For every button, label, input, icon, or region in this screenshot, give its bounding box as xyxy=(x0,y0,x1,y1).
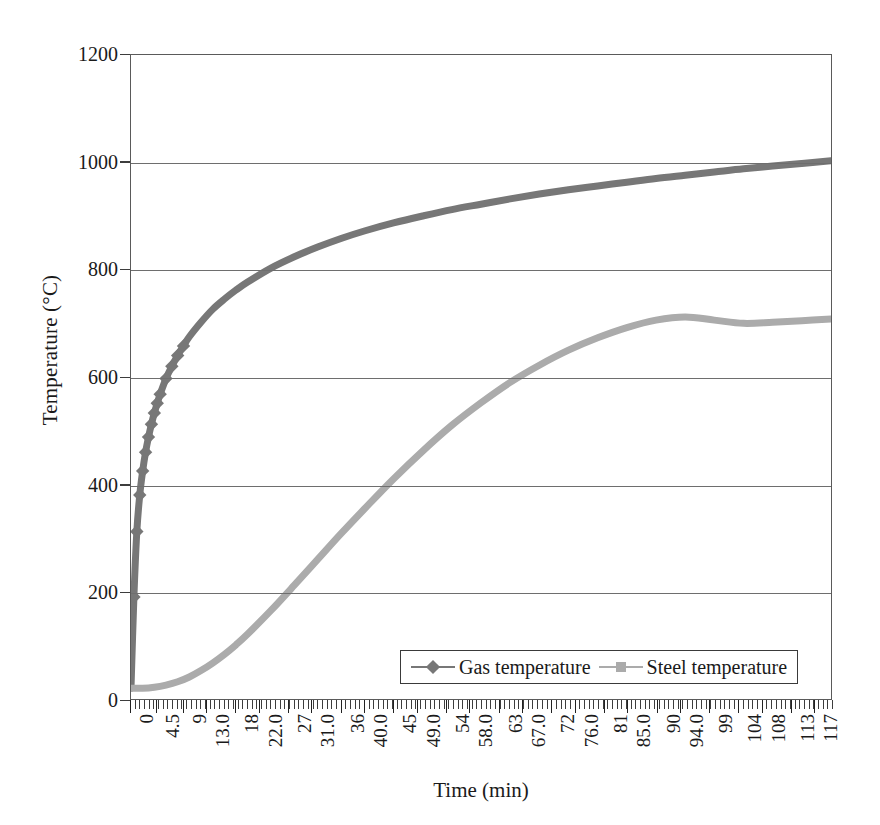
y-tick-mark xyxy=(120,377,130,379)
x-tick-label: 27 xyxy=(295,714,314,733)
x-minor-tick xyxy=(607,700,608,709)
gridline xyxy=(131,486,831,487)
x-minor-tick xyxy=(678,700,679,709)
x-tick-label: 104 xyxy=(745,714,764,743)
x-minor-tick xyxy=(537,700,538,709)
x-axis-title: Time (min) xyxy=(130,778,832,803)
x-minor-tick xyxy=(345,700,346,709)
x-minor-tick xyxy=(776,700,777,709)
x-major-tick xyxy=(738,700,739,713)
y-tick-label: 1200 xyxy=(60,44,118,64)
x-tick-label: 90 xyxy=(664,714,683,733)
x-tick-label: 113 xyxy=(798,714,817,742)
x-major-tick xyxy=(311,700,312,713)
x-major-tick xyxy=(791,700,792,713)
gridline xyxy=(131,270,831,271)
x-minor-tick xyxy=(359,700,360,709)
x-minor-tick xyxy=(598,700,599,709)
y-tick-label: 1000 xyxy=(60,152,118,172)
x-minor-tick xyxy=(523,700,524,709)
x-minor-tick xyxy=(294,700,295,709)
gridline xyxy=(131,163,831,164)
x-minor-tick xyxy=(617,700,618,709)
x-minor-tick xyxy=(153,700,154,709)
x-tick-label: 76.0 xyxy=(582,714,601,747)
x-minor-tick xyxy=(270,700,271,709)
x-minor-tick xyxy=(771,700,772,709)
x-minor-tick xyxy=(313,700,314,709)
x-minor-tick xyxy=(542,700,543,709)
x-major-tick xyxy=(288,700,289,713)
x-minor-tick xyxy=(336,700,337,709)
legend-entry: Gas temperature xyxy=(411,656,591,679)
x-tick-label: 0 xyxy=(137,714,156,724)
x-major-tick xyxy=(814,700,815,713)
x-tick-label: 81 xyxy=(611,714,630,733)
x-minor-tick xyxy=(706,700,707,709)
x-major-tick xyxy=(657,700,658,713)
x-minor-tick xyxy=(387,700,388,709)
x-minor-tick xyxy=(729,700,730,709)
x-minor-tick xyxy=(135,700,136,709)
x-minor-tick xyxy=(350,700,351,709)
x-minor-tick xyxy=(378,700,379,709)
x-minor-tick xyxy=(289,700,290,709)
series-line xyxy=(131,317,831,688)
x-tick-label: 31.0 xyxy=(318,714,337,747)
x-tick-label: 85.0 xyxy=(634,714,653,747)
x-major-tick xyxy=(522,700,523,713)
x-minor-tick xyxy=(490,700,491,709)
x-minor-tick xyxy=(420,700,421,709)
x-minor-tick xyxy=(781,700,782,709)
x-major-tick xyxy=(627,700,628,713)
x-axis-tick-labels: 04.5913.01822.02731.03640.04549.05458.06… xyxy=(130,714,832,776)
x-minor-tick xyxy=(298,700,299,709)
x-minor-tick xyxy=(748,700,749,709)
x-minor-tick xyxy=(692,700,693,709)
x-minor-tick xyxy=(710,700,711,709)
x-minor-tick xyxy=(462,700,463,709)
x-minor-tick xyxy=(724,700,725,709)
x-minor-tick xyxy=(486,700,487,709)
y-tick-mark xyxy=(120,54,130,56)
x-minor-tick xyxy=(467,700,468,709)
x-minor-tick xyxy=(649,700,650,709)
x-tick-label: 40.0 xyxy=(371,714,390,747)
series-curves xyxy=(131,55,831,699)
x-minor-tick xyxy=(149,700,150,709)
series-line xyxy=(131,161,831,689)
x-minor-tick xyxy=(832,700,833,709)
x-minor-tick xyxy=(266,700,267,709)
x-minor-tick xyxy=(158,700,159,709)
x-major-tick xyxy=(446,700,447,713)
x-tick-label: 67.0 xyxy=(529,714,548,747)
x-major-tick xyxy=(469,700,470,713)
x-minor-tick xyxy=(186,700,187,709)
x-tick-label: 94.0 xyxy=(687,714,706,747)
y-axis-tick-labels: 020040060080010001200 xyxy=(56,0,118,825)
x-minor-tick xyxy=(621,700,622,709)
x-minor-tick xyxy=(565,700,566,709)
y-tick-mark xyxy=(120,269,130,271)
x-minor-tick xyxy=(210,700,211,709)
x-minor-tick xyxy=(355,700,356,709)
data-marker xyxy=(131,525,144,538)
legend-entry: Steel temperature xyxy=(599,656,788,679)
y-tick-mark xyxy=(120,161,130,163)
x-minor-tick xyxy=(247,700,248,709)
y-tick-mark xyxy=(120,592,130,594)
y-tick-label: 800 xyxy=(60,259,118,279)
gridline xyxy=(131,378,831,379)
x-minor-tick xyxy=(645,700,646,709)
x-minor-tick xyxy=(687,700,688,709)
x-major-tick xyxy=(364,700,365,713)
x-minor-tick xyxy=(196,700,197,709)
x-minor-tick xyxy=(453,700,454,709)
x-minor-tick xyxy=(504,700,505,709)
x-tick-label: 36 xyxy=(348,714,367,733)
x-minor-tick xyxy=(167,700,168,709)
x-minor-tick xyxy=(238,700,239,709)
x-tick-label: 108 xyxy=(769,714,788,743)
x-minor-tick xyxy=(144,700,145,709)
x-minor-tick xyxy=(766,700,767,709)
